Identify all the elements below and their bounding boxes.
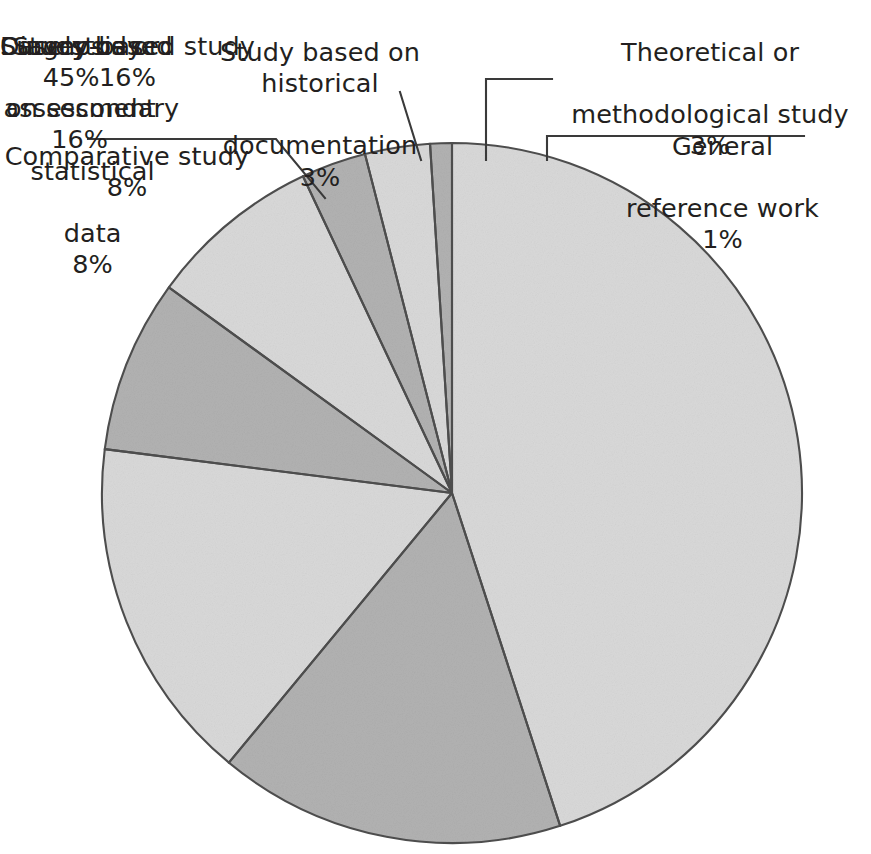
leader-line-general	[547, 136, 804, 160]
pie-chart: Study based on historical documentation …	[0, 0, 871, 854]
pie-chart-canvas	[0, 0, 871, 854]
